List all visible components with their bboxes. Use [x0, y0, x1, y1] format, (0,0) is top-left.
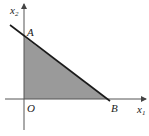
diagram-canvas: x2 x1 A B O: [0, 0, 149, 136]
point-b-label: B: [111, 102, 118, 114]
x-axis-label: x1: [136, 103, 145, 117]
point-a-label: A: [26, 26, 34, 38]
y-axis-label: x2: [9, 4, 19, 18]
origin-label: O: [27, 102, 35, 114]
